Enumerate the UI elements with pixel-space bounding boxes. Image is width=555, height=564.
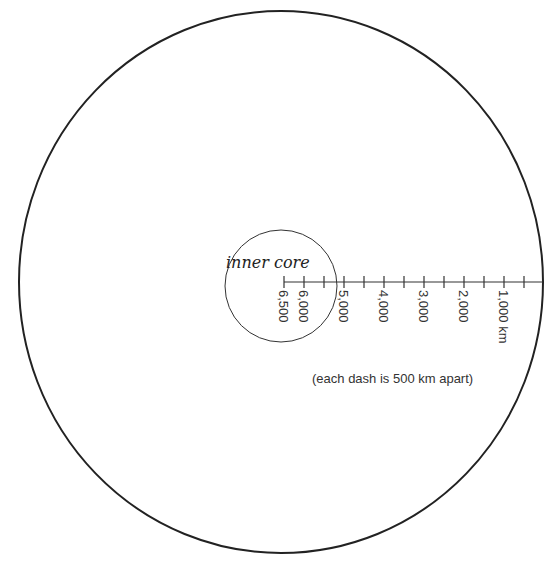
- scale-note: (each dash is 500 km apart): [312, 371, 473, 386]
- scale-labels: 6,5006,0005,0004,0003,0002,0001,000 km: [276, 290, 511, 343]
- inner-core-label: inner core: [226, 253, 310, 272]
- scale-label: 2,000: [456, 290, 471, 323]
- scale-label: 6,500: [276, 290, 291, 323]
- scale-label: 5,000: [336, 290, 351, 323]
- scale-label: 3,000: [416, 290, 431, 323]
- scale-label: 4,000: [376, 290, 391, 323]
- inner-core-circle: [225, 230, 337, 342]
- scale-label: 6,000: [296, 290, 311, 323]
- earth-cross-section-diagram: inner core 6,5006,0005,0004,0003,0002,00…: [0, 0, 555, 564]
- scale-label: 1,000 km: [496, 290, 511, 343]
